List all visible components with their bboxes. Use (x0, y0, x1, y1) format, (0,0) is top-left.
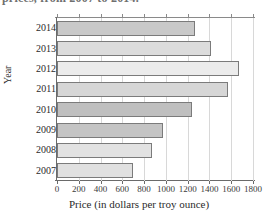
bar-2013 (57, 41, 211, 56)
x-tick-top-1000 (166, 14, 167, 17)
y-axis-title: Year (2, 66, 13, 84)
x-tick-label-1400: 1400 (200, 184, 218, 194)
x-tick-top-1800 (253, 14, 254, 17)
x-tick-top-1600 (231, 14, 232, 17)
x-tick-top-200 (79, 14, 80, 17)
bar-2009 (57, 123, 163, 138)
bar-2011 (57, 82, 228, 97)
x-tick-label-1200: 1200 (179, 184, 197, 194)
bar-2014 (57, 21, 195, 36)
plot-area (57, 18, 253, 181)
x-tick-top-1400 (209, 14, 210, 17)
x-tick-top-1200 (188, 14, 189, 17)
x-tick-top-800 (144, 14, 145, 17)
y-tick-label-2008: 2008 (36, 145, 56, 155)
x-axis-title: Price (in dollars per troy ounce) (0, 198, 278, 210)
x-tick-label-1000: 1000 (157, 184, 175, 194)
y-tick-label-2007: 2007 (36, 166, 56, 176)
y-tick-label-2009: 2009 (36, 125, 56, 135)
y-tick-label-2010: 2010 (36, 105, 56, 115)
x-tick-label-1800: 1800 (244, 184, 262, 194)
x-tick-label-1600: 1600 (222, 184, 240, 194)
y-tick-label-2012: 2012 (36, 64, 56, 74)
y-tick-label-2011: 2011 (36, 84, 56, 94)
x-tick-label-600: 600 (116, 184, 130, 194)
gridline-1600 (231, 18, 232, 181)
x-tick-top-600 (122, 14, 123, 17)
x-tick-label-0: 0 (55, 184, 60, 194)
bar-2012 (57, 61, 239, 76)
gridline-1800 (253, 18, 254, 181)
y-tick-label-2013: 2013 (36, 44, 56, 54)
x-tick-label-200: 200 (72, 184, 86, 194)
bar-2008 (57, 143, 152, 158)
x-tick-top-400 (101, 14, 102, 17)
y-tick-label-2014: 2014 (36, 23, 56, 33)
x-tick-top-0 (57, 14, 58, 17)
bar-2010 (57, 102, 192, 117)
x-tick-label-800: 800 (137, 184, 151, 194)
bar-chart-figure: Year 20142013201220112010200920082007 02… (0, 0, 278, 216)
x-tick-label-400: 400 (94, 184, 108, 194)
bar-2007 (57, 163, 133, 178)
